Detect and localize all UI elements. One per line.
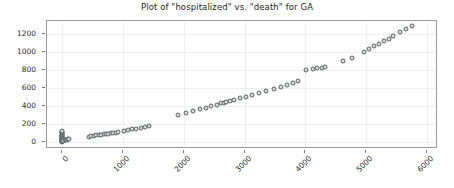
- data-point: [323, 65, 328, 70]
- grid-line-vertical: [427, 21, 428, 147]
- data-point: [60, 128, 65, 133]
- y-axis-tick-mark: [42, 69, 45, 70]
- y-axis-tick-mark: [42, 33, 45, 34]
- data-point: [209, 104, 214, 109]
- data-point: [398, 29, 403, 34]
- y-axis-tick-label: 1200: [17, 28, 36, 37]
- data-point: [250, 92, 255, 97]
- x-axis-tick-mark: [183, 150, 184, 153]
- data-point: [197, 107, 202, 112]
- y-axis-tick-label: 400: [22, 100, 36, 109]
- data-point: [290, 80, 295, 85]
- data-point: [341, 58, 346, 63]
- data-point: [271, 86, 276, 91]
- data-point: [175, 112, 180, 117]
- grid-line-vertical: [366, 21, 367, 147]
- grid-line-horizontal: [47, 52, 436, 53]
- grid-line-horizontal: [47, 70, 436, 71]
- x-axis-tick-label: 5000: [355, 154, 375, 174]
- x-axis-tick-label: 1000: [111, 154, 131, 174]
- y-axis-tick-label: 200: [22, 118, 36, 127]
- grid-line-horizontal: [47, 106, 436, 107]
- x-axis-labels: 0100020003000400050006000: [46, 150, 437, 188]
- data-point: [116, 130, 121, 135]
- x-axis-tick-mark: [122, 150, 123, 153]
- y-axis-tick-mark: [42, 87, 45, 88]
- data-point: [244, 94, 249, 99]
- x-axis-tick-mark: [365, 150, 366, 153]
- chart-figure: Plot of "hospitalized" vs. "death" for G…: [0, 0, 454, 188]
- data-point: [203, 105, 208, 110]
- grid-line-horizontal: [47, 88, 436, 89]
- data-point: [238, 96, 243, 101]
- grid-line-horizontal: [47, 142, 436, 143]
- x-axis-tick-label: 0: [61, 154, 71, 164]
- data-point: [279, 84, 284, 89]
- data-point: [285, 82, 290, 87]
- chart-title: Plot of "hospitalized" vs. "death" for G…: [0, 2, 454, 12]
- y-axis-tick-label: 1000: [17, 46, 36, 55]
- x-axis-tick-mark: [426, 150, 427, 153]
- y-axis-labels: 020040060080010001200: [0, 20, 42, 148]
- data-point: [147, 124, 152, 129]
- x-axis-tick-label: 3000: [233, 154, 253, 174]
- x-axis-tick-mark: [304, 150, 305, 153]
- data-point: [190, 109, 195, 114]
- data-point: [232, 98, 237, 103]
- grid-line-vertical: [305, 21, 306, 147]
- grid-line-horizontal: [47, 34, 436, 35]
- data-point: [349, 55, 354, 60]
- y-axis-tick-mark: [42, 141, 45, 142]
- data-point: [257, 91, 262, 96]
- x-axis-tick-mark: [244, 150, 245, 153]
- x-axis-tick-mark: [61, 150, 62, 153]
- grid-line-vertical: [245, 21, 246, 147]
- x-axis-tick-label: 6000: [415, 154, 435, 174]
- grid-line-horizontal: [47, 124, 436, 125]
- data-point: [410, 24, 415, 29]
- y-axis-tick-mark: [42, 123, 45, 124]
- data-point: [303, 67, 308, 72]
- y-axis-tick-label: 600: [22, 82, 36, 91]
- y-axis-tick-label: 0: [31, 136, 36, 145]
- data-point: [404, 26, 409, 31]
- x-axis-tick-label: 4000: [294, 154, 314, 174]
- data-point: [183, 110, 188, 115]
- data-point: [296, 79, 301, 84]
- data-point: [361, 49, 366, 54]
- x-axis-tick-label: 2000: [172, 154, 192, 174]
- data-point: [391, 34, 396, 39]
- plot-area: [46, 20, 437, 148]
- y-axis-tick-mark: [42, 51, 45, 52]
- data-point: [67, 136, 72, 141]
- grid-line-vertical: [184, 21, 185, 147]
- y-axis-tick-label: 800: [22, 64, 36, 73]
- data-point: [263, 89, 268, 94]
- y-axis-tick-mark: [42, 105, 45, 106]
